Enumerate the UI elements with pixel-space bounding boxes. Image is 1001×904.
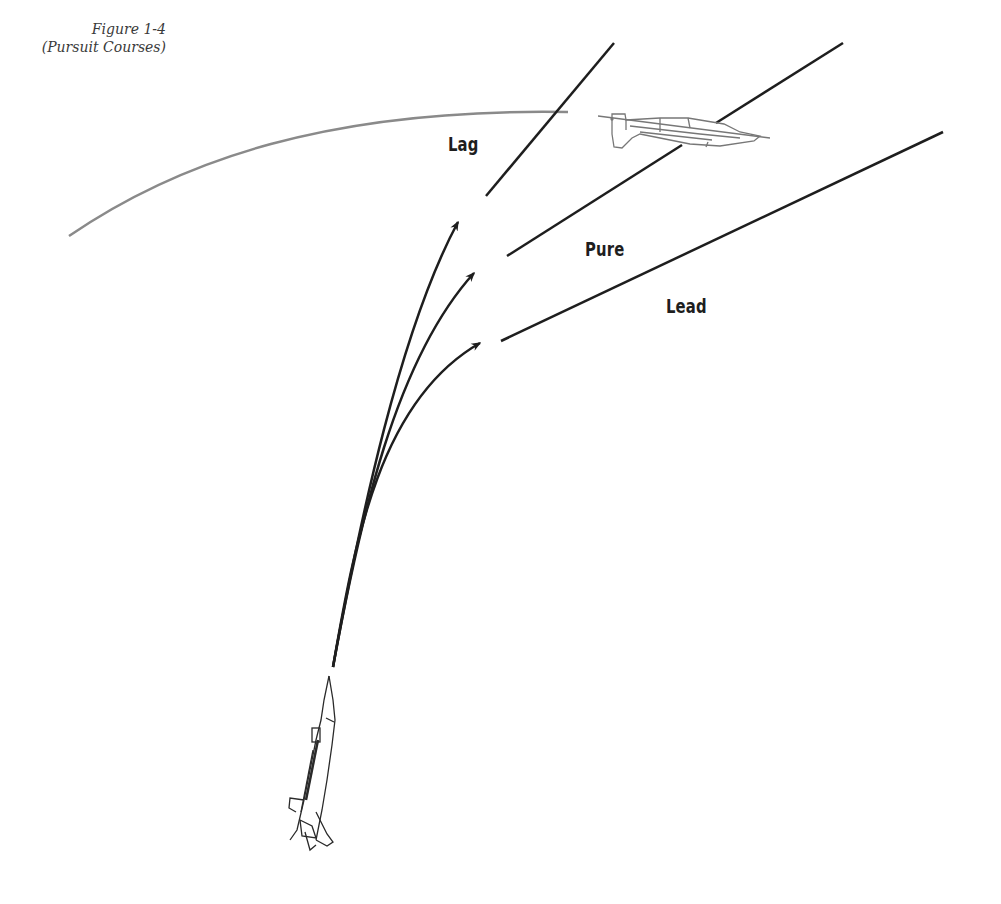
lead-label: Lead: [666, 295, 707, 317]
lag-arrow: [333, 222, 458, 667]
attacker-aircraft-icon: [289, 676, 335, 850]
pure-label: Pure: [585, 238, 624, 260]
pure-arrow: [333, 273, 474, 667]
pure-line-front: [716, 43, 843, 123]
lag-line: [486, 43, 614, 196]
pursuit-diagram: [0, 0, 1001, 904]
target-flight-path: [69, 112, 568, 236]
lag-label: Lag: [448, 133, 479, 155]
target-aircraft-icon: [598, 114, 770, 148]
lead-line: [501, 132, 943, 341]
lead-arrow: [333, 343, 480, 667]
